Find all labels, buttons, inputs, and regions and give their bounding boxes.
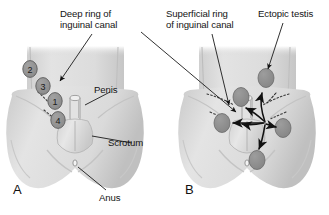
anus-b (245, 160, 249, 166)
marker-1: 1 (48, 93, 62, 110)
marker-4: 4 (51, 112, 65, 129)
marker-1-label: 1 (52, 97, 57, 107)
anus-a (73, 160, 77, 166)
marker-3: 3 (36, 78, 50, 95)
abdomen-top-fade-a (27, 46, 124, 56)
penis-a (70, 95, 80, 122)
ectopic-testis-abdominal-wall (258, 69, 274, 88)
ectopic-testis-suprapubic (233, 88, 249, 107)
ectopic-testis-contralateral (275, 119, 291, 138)
label-penis: Penis (94, 84, 118, 95)
marker-2-label: 2 (27, 65, 32, 75)
marker-4-label: 4 (55, 116, 60, 126)
marker-2: 2 (23, 61, 37, 78)
ectopic-testis-femoral (214, 114, 230, 133)
marker-3-label: 3 (40, 82, 45, 92)
label-superficial-ring: Superficial ring of inguinal canal (166, 8, 234, 30)
panel-letter-b: B (185, 182, 194, 197)
label-anus: Anus (99, 192, 120, 203)
ectopic-testis-perineal (249, 151, 265, 170)
anatomy-figure: 2 3 1 4 (0, 0, 329, 215)
label-scrotum: Scrotum (108, 137, 143, 148)
abdomen-top-fade-b (199, 46, 296, 56)
label-deep-ring: Deep ring of inguinal canal (60, 8, 117, 30)
panel-b-body (178, 46, 316, 188)
panel-letter-a: A (13, 182, 22, 197)
label-ectopic-testis: Ectopic testis (258, 8, 313, 19)
